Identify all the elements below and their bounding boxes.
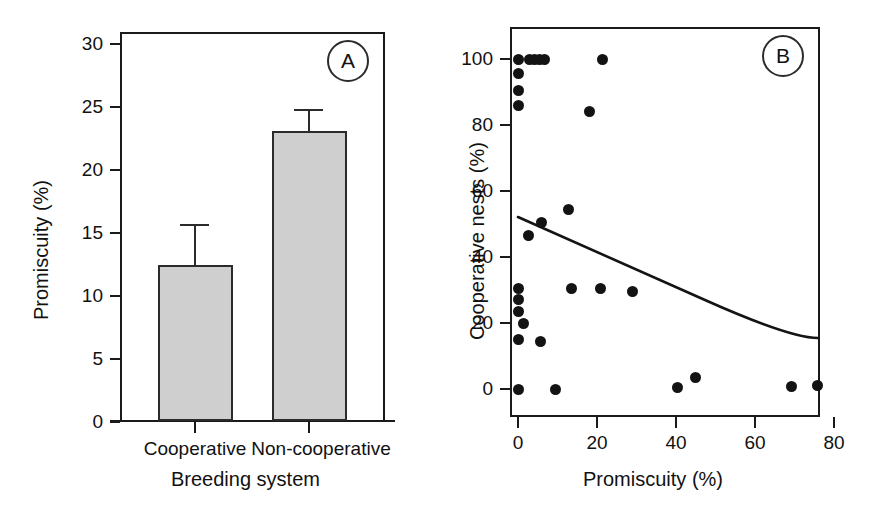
panel-a-xtick-non-cooperative: [308, 422, 310, 433]
scatter-point: [672, 382, 683, 393]
scatter-point: [597, 54, 608, 65]
scatter-point: [513, 100, 524, 111]
scatter-point: [518, 318, 529, 329]
panel-a-ytick-label-30: 30: [58, 34, 103, 53]
panel-a-ytick-10: [110, 295, 120, 297]
scatter-point: [566, 283, 577, 294]
panel-a-xtick-cooperative: [194, 422, 196, 433]
scatter-point: [513, 384, 524, 395]
scatter-point: [786, 381, 797, 392]
panel-a-ytick-20: [110, 169, 120, 171]
errorbar-stem-cooperative: [194, 225, 196, 265]
panel-a-ytick-30: [110, 43, 120, 45]
panel-a-category-label-non-cooperative: Non-cooperative: [232, 438, 410, 460]
bar-non-cooperative: [272, 131, 347, 421]
panel-a-ytick-label-25: 25: [58, 97, 103, 116]
panel-a-badge: A: [327, 40, 369, 82]
panel-b: 0 20 40 60 80 100 Cooperative nests (%) …: [440, 0, 895, 515]
panel-a-ytick-label-10: 10: [58, 286, 103, 305]
scatter-point: [513, 68, 524, 79]
panel-a: 0 5 10 15 20 25 30 Promiscuity (%) Coope…: [0, 0, 440, 515]
scatter-point: [550, 384, 561, 395]
scatter-point: [595, 283, 606, 294]
scatter-point: [523, 230, 534, 241]
panel-a-x-axis: [110, 420, 395, 422]
scatter-point: [513, 334, 524, 345]
scatter-point: [539, 54, 550, 65]
scatter-point: [513, 283, 524, 294]
panel-a-ytick-0: [110, 421, 120, 423]
scatter-point: [812, 380, 823, 391]
errorbar-cap-cooperative: [180, 224, 209, 226]
scatter-point: [513, 54, 524, 65]
panel-b-badge: B: [762, 35, 804, 77]
panel-a-x-axis-title: Breeding system: [171, 468, 320, 491]
scatter-point: [535, 336, 546, 347]
scatter-point: [627, 286, 638, 297]
scatter-point: [584, 106, 595, 117]
figure-container: 0 5 10 15 20 25 30 Promiscuity (%) Coope…: [0, 0, 895, 515]
scatter-point: [513, 306, 524, 317]
errorbar-stem-non-cooperative: [308, 110, 310, 131]
panel-b-scatter-layer: [440, 0, 895, 515]
panel-a-ytick-label-20: 20: [58, 160, 103, 179]
scatter-point: [513, 85, 524, 96]
scatter-point: [563, 204, 574, 215]
panel-a-ytick-label-15: 15: [58, 223, 103, 242]
panel-a-ytick-15: [110, 232, 120, 234]
panel-a-ytick-5: [110, 358, 120, 360]
panel-a-ytick-label-5: 5: [58, 349, 103, 368]
panel-a-y-axis-title: Promiscuity (%): [30, 180, 53, 320]
scatter-point: [513, 294, 524, 305]
scatter-point: [690, 372, 701, 383]
scatter-point: [536, 217, 547, 228]
errorbar-cap-non-cooperative: [294, 109, 323, 111]
panel-a-ytick-label-0: 0: [58, 412, 103, 431]
bar-cooperative: [158, 265, 233, 421]
panel-a-ytick-25: [110, 106, 120, 108]
